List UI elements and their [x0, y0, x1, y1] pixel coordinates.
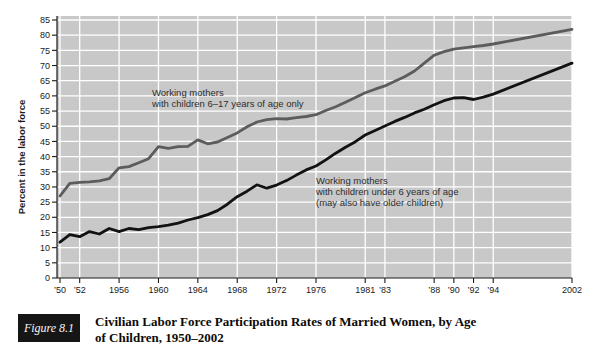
y-axis-title: Percent in the labor force	[16, 100, 27, 215]
y-tick-label: 0	[45, 273, 50, 283]
y-tick-label: 70	[40, 61, 50, 71]
y-tick-label: 5	[45, 258, 50, 268]
x-tick-label: ’83	[379, 285, 391, 295]
y-tick-label: 25	[40, 197, 50, 207]
caption-line-2: of Children, 1950–2002	[95, 330, 476, 346]
y-tick-label: 40	[40, 152, 50, 162]
y-tick-label: 10	[40, 243, 50, 253]
figure-label-box: Figure 8.1	[18, 314, 80, 342]
y-tick-label: 15	[40, 228, 50, 238]
figure-label: Figure 8.1	[24, 321, 74, 336]
y-tick-label: 55	[40, 106, 50, 116]
line-chart: 0510152025303540455055606570758085’50’52…	[0, 0, 604, 310]
x-tick-label: 1960	[148, 285, 168, 295]
x-tick-label: ’90	[448, 285, 460, 295]
x-tick-label: ’94	[487, 285, 499, 295]
y-tick-label: 80	[40, 30, 50, 40]
y-tick-label: 20	[40, 212, 50, 222]
figure-caption: Civilian Labor Force Participation Rates…	[95, 314, 476, 345]
x-tick-label: 1981	[355, 285, 375, 295]
x-tick-label: 1968	[227, 285, 247, 295]
caption-line-1: Civilian Labor Force Participation Rates…	[95, 314, 476, 330]
x-tick-label: ’50	[54, 285, 66, 295]
y-tick-label: 45	[40, 137, 50, 147]
y-tick-label: 60	[40, 91, 50, 101]
y-tick-label: 30	[40, 182, 50, 192]
y-tick-label: 50	[40, 121, 50, 131]
x-tick-label: 1964	[188, 285, 208, 295]
y-tick-label: 65	[40, 76, 50, 86]
x-tick-label: ’88	[428, 285, 440, 295]
x-tick-label: ’92	[468, 285, 480, 295]
figure-8-1: 0510152025303540455055606570758085’50’52…	[0, 0, 604, 354]
y-tick-label: 75	[40, 46, 50, 56]
y-tick-label: 85	[40, 15, 50, 25]
x-tick-label: ’52	[74, 285, 86, 295]
y-tick-label: 35	[40, 167, 50, 177]
x-tick-label: 1972	[267, 285, 287, 295]
x-tick-label: 1976	[306, 285, 326, 295]
plot-area	[57, 16, 572, 278]
caption-row: Figure 8.1 Civilian Labor Force Particip…	[18, 314, 476, 345]
x-tick-label: 1956	[109, 285, 129, 295]
x-tick-label: 2002	[562, 285, 582, 295]
